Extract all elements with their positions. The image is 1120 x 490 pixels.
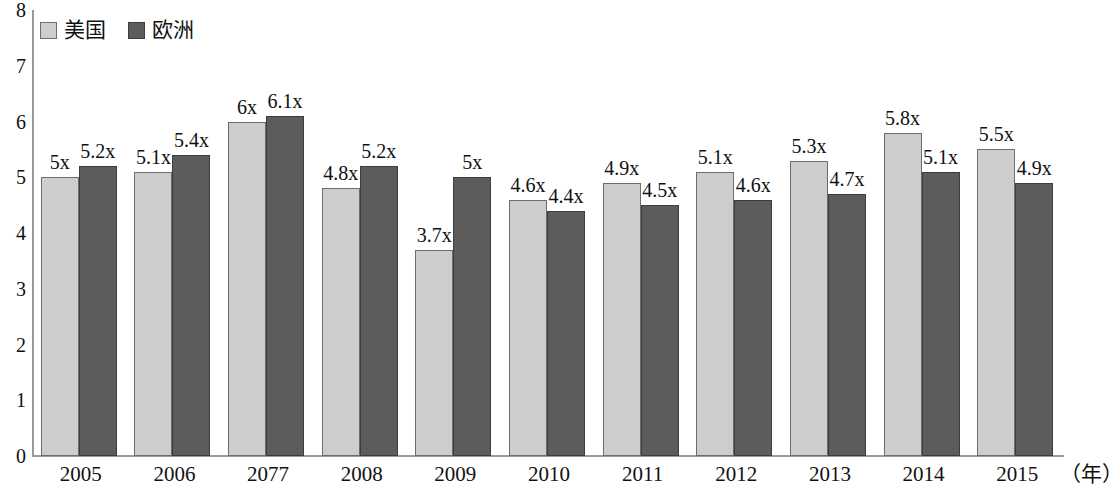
x-axis-label-2011: 2011 [596,462,690,486]
x-axis-label-2013: 2013 [783,462,877,486]
x-axis-label-2010: 2010 [502,462,596,486]
bar-eu-2011 [641,205,679,456]
bar-us-2011 [603,183,641,456]
bar-value-label-eu-2010: 4.4x [538,186,594,206]
y-axis-tick-4: 4 [2,223,26,243]
x-axis-label-2015: 2015 [970,462,1064,486]
y-axis-tick-1: 1 [2,390,26,410]
y-axis-tick-5: 5 [2,167,26,187]
bar-eu-2006 [172,155,210,456]
chart-legend: 美国欧洲 [40,20,194,41]
x-axis-label-2014: 2014 [877,462,971,486]
y-axis-tick-8: 8 [2,0,26,20]
legend-swatch-icon [40,22,57,39]
bar-value-label-us-2014: 5.8x [875,108,931,128]
legend-label: 美国 [64,20,106,41]
legend-swatch-icon [128,22,145,39]
bar-eu-2010 [547,211,585,456]
bar-value-label-eu-2006: 5.4x [163,130,219,150]
x-axis-label-2009: 2009 [409,462,503,486]
bar-eu-2009 [453,177,491,456]
x-axis-label-2008: 2008 [315,462,409,486]
bar-eu-2013 [828,194,866,456]
bar-value-label-eu-2013: 4.7x [819,169,875,189]
bar-us-2015 [977,149,1015,456]
legend-label: 欧洲 [152,20,194,41]
bar-us-2009 [415,250,453,456]
bar-us-2006 [134,172,172,456]
bar-value-label-eu-2009: 5x [444,152,500,172]
bar-eu-2015 [1015,183,1053,456]
bar-value-label-eu-2011: 4.5x [632,180,688,200]
x-axis-label-2006: 2006 [128,462,222,486]
bar-value-label-eu-2014: 5.1x [913,147,969,167]
x-axis-label-2012: 2012 [689,462,783,486]
bar-value-label-eu-2005: 5.2x [70,141,126,161]
bar-eu-2005 [79,166,117,456]
bar-us-2012 [696,172,734,456]
bar-eu-2014 [922,172,960,456]
y-axis-tick-7: 7 [2,56,26,76]
bar-eu-2008 [360,166,398,456]
bar-us-2014 [884,133,922,456]
y-axis-tick-2: 2 [2,335,26,355]
y-axis-tick-0: 0 [2,446,26,466]
bar-value-label-eu-2012: 4.6x [725,175,781,195]
y-axis-tick-6: 6 [2,112,26,132]
bar-us-2013 [790,161,828,456]
x-axis-unit-label: （年） [1060,462,1120,486]
bar-value-label-us-2011: 4.9x [594,158,650,178]
bar-value-label-us-2013: 5.3x [781,136,837,156]
bar-value-label-eu-2015: 4.9x [1006,158,1062,178]
bar-value-label-eu-2077: 6.1x [257,91,313,111]
y-axis-tick-labels: 876543210 [0,0,26,490]
x-axis-label-2077: 2077 [221,462,315,486]
bar-value-label-us-2015: 5.5x [968,124,1024,144]
bar-us-2010 [509,200,547,456]
bar-eu-2012 [734,200,772,456]
bar-us-2077 [228,122,266,457]
bar-us-2005 [41,177,79,456]
bar-value-label-us-2012: 5.1x [687,147,743,167]
bar-us-2008 [322,188,360,456]
x-axis-label-2005: 2005 [34,462,128,486]
legend-item-eu: 欧洲 [128,20,194,41]
legend-item-us: 美国 [40,20,106,41]
y-axis-tick-3: 3 [2,279,26,299]
bar-eu-2077 [266,116,304,456]
bar-value-label-eu-2008: 5.2x [351,141,407,161]
bar-chart: 876543210 美国欧洲 5x5.2x20055.1x5.4x20066x6… [0,0,1120,490]
